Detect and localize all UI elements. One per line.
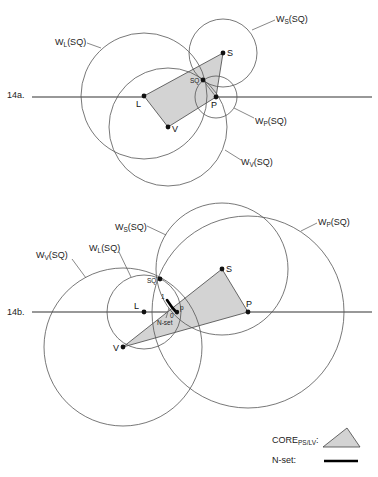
core-region-a xyxy=(144,53,223,127)
point-ideal-p-label-b: p xyxy=(180,304,184,312)
point-p-label-a: P xyxy=(211,100,217,110)
n-set-label: N-set xyxy=(157,319,173,326)
point-s-a xyxy=(221,51,226,56)
point-v-a xyxy=(166,125,171,130)
point-s-label-b: S xyxy=(226,264,232,274)
core-region-b xyxy=(123,269,248,347)
point-s-label-a: S xyxy=(227,48,233,58)
leader-wl-a xyxy=(87,43,101,48)
figure-14b-label: 14b. xyxy=(7,307,25,317)
point-sq-label-a: SQ xyxy=(190,77,199,85)
label-ws-a: WS(SQ) xyxy=(276,14,308,25)
n-set-endpoint-0: 0 xyxy=(170,312,174,319)
figure-14a-label: 14a. xyxy=(7,90,25,100)
leader-wv-a xyxy=(225,150,241,160)
figure-14a: 14a. L S SQ P V WL(SQ) WS(SQ) WP(SQ) WV(… xyxy=(7,14,372,186)
label-wp-a: WP(SQ) xyxy=(255,116,287,127)
label-wp-b: WP(SQ) xyxy=(318,217,350,228)
label-wl-b: WL(SQ) xyxy=(89,243,120,254)
point-p-b xyxy=(246,310,251,315)
legend-nset-label: N-set: xyxy=(272,455,296,465)
point-p-label-b: P xyxy=(246,299,252,309)
leader-wp-a xyxy=(234,108,254,118)
figure-14b: 14b. L S SQ P V p 1 0 N-set WV(SQ) WL(SQ… xyxy=(7,203,372,426)
label-wl-a: WL(SQ) xyxy=(55,37,86,48)
point-s-b xyxy=(220,267,225,272)
point-l-label-a: L xyxy=(136,99,141,109)
point-p-a xyxy=(214,95,219,100)
point-v-label-a: V xyxy=(172,124,178,134)
leader-wp-b xyxy=(301,223,317,231)
label-ws-b: WS(SQ) xyxy=(115,222,147,233)
point-v-label-b: V xyxy=(113,343,119,353)
label-wv-a: WV(SQ) xyxy=(241,157,273,168)
legend-core-swatch xyxy=(323,428,360,447)
leader-wv-b xyxy=(72,259,86,278)
leader-wl-b xyxy=(119,252,131,277)
point-sq-b xyxy=(158,277,163,282)
point-sq-label-b: SQ xyxy=(147,277,156,285)
legend: COREPS/LV: N-set: xyxy=(272,428,360,465)
label-wv-b: WV(SQ) xyxy=(36,250,68,261)
leader-ws-a xyxy=(252,20,275,30)
n-set-endpoint-1: 1 xyxy=(161,293,165,300)
point-l-b xyxy=(142,310,147,315)
diagram-canvas: 14a. L S SQ P V WL(SQ) WS(SQ) WP(SQ) WV(… xyxy=(0,0,378,477)
point-v-b xyxy=(121,345,126,350)
point-l-a xyxy=(142,94,147,99)
point-sq-a xyxy=(201,78,206,83)
legend-core-label: COREPS/LV: xyxy=(272,435,318,446)
point-l-label-b: L xyxy=(134,301,139,311)
point-ideal-p-b xyxy=(175,310,179,314)
leader-ws-b xyxy=(147,226,166,235)
